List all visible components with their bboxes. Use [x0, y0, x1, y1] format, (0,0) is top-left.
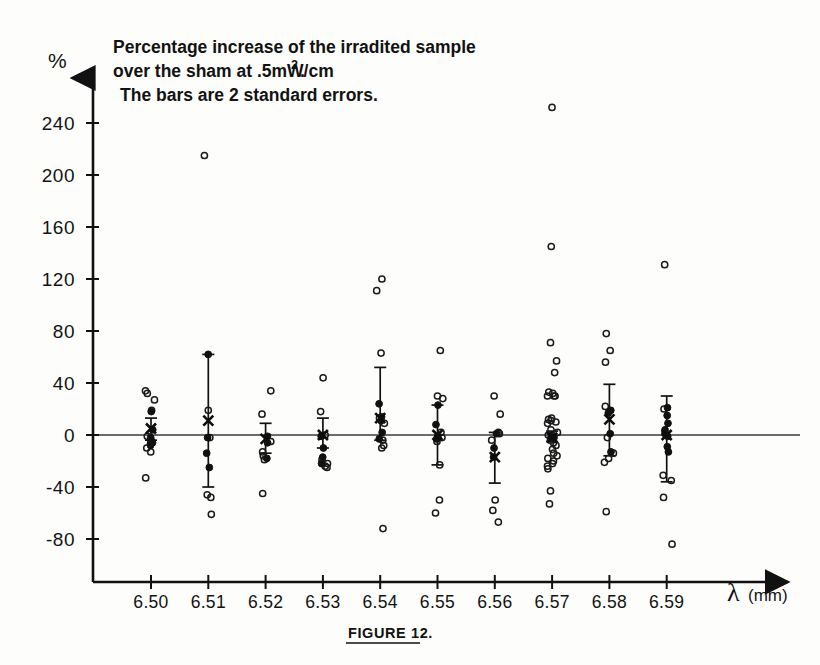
- data-point-open: [603, 509, 609, 515]
- data-point-open: [320, 375, 326, 381]
- x-tick-label: 6.54: [363, 592, 398, 612]
- x-tick-label: 6.58: [592, 592, 627, 612]
- data-group-column: [317, 375, 331, 471]
- data-point-open: [380, 526, 386, 532]
- data-point-filled: [206, 464, 213, 471]
- y-tick-label: 40: [53, 373, 75, 394]
- data-group-column: [660, 262, 675, 548]
- caption-text: FIGURE 12.: [348, 625, 433, 641]
- data-point-open: [546, 501, 552, 507]
- data-point-open: [259, 411, 265, 417]
- y-axis-ticks: 24020016012080400-40-80: [42, 113, 99, 550]
- data-point-open: [552, 370, 558, 376]
- data-point-open: [660, 472, 666, 478]
- plot-axes: [93, 78, 800, 582]
- data-point-open: [495, 519, 501, 525]
- data-point-filled: [319, 454, 326, 461]
- data-point-open: [151, 397, 157, 403]
- data-group-column: [201, 152, 214, 517]
- data-point-filled: [376, 436, 383, 443]
- y-tick-label: 0: [64, 425, 75, 446]
- x-tick-label: 6.57: [534, 592, 569, 612]
- x-tick-label: 6.55: [420, 592, 455, 612]
- data-group-column: [374, 276, 388, 532]
- x-tick-label: 6.59: [649, 592, 684, 612]
- data-point-open: [662, 262, 668, 268]
- x-tick-label: 6.56: [477, 592, 512, 612]
- data-point-filled: [665, 420, 672, 427]
- data-point-open: [491, 393, 497, 399]
- data-point-open: [553, 358, 559, 364]
- figure-annotation: Percentage increase of the irradited sam…: [113, 37, 476, 105]
- y-tick-label: 200: [42, 165, 75, 186]
- data-point-open: [440, 396, 446, 402]
- lambda-symbol: λ: [727, 578, 740, 607]
- annotation-superscript: 2: [291, 58, 298, 72]
- y-tick-label: 120: [42, 269, 75, 290]
- x-axis-units-label: (mm): [748, 586, 788, 605]
- data-point-filled: [147, 442, 154, 449]
- data-point-open: [208, 511, 214, 517]
- data-point-open: [547, 488, 553, 494]
- data-point-open: [603, 331, 609, 337]
- x-tick-label: 6.53: [305, 592, 340, 612]
- data-group-column: [601, 331, 616, 515]
- data-point-open: [668, 477, 674, 483]
- data-point-filled: [204, 434, 211, 441]
- data-point-open: [547, 340, 553, 346]
- x-axis-ticks: 6.506.516.526.536.546.556.566.576.586.59: [133, 575, 684, 612]
- annotation-line-1: Percentage increase of the irradited sam…: [113, 37, 476, 57]
- data-point-filled: [376, 400, 383, 407]
- data-point-filled: [263, 455, 270, 462]
- data-group-column: [259, 388, 274, 497]
- data-point-filled: [608, 449, 615, 456]
- data-point-filled: [664, 404, 671, 411]
- data-point-filled: [664, 412, 671, 419]
- data-point-open: [492, 497, 498, 503]
- data-point-filled: [148, 408, 155, 415]
- data-group-column: [544, 104, 560, 507]
- annotation-trailing-dot: .: [300, 61, 305, 81]
- data-point-open: [548, 243, 554, 249]
- data-point-open: [318, 409, 324, 415]
- data-point-open: [601, 459, 607, 465]
- data-point-open: [436, 497, 442, 503]
- data-point-open: [660, 494, 666, 500]
- data-point-open: [374, 288, 380, 294]
- x-tick-label: 6.52: [248, 592, 283, 612]
- data-point-open: [379, 276, 385, 282]
- data-point-filled: [435, 402, 442, 409]
- data-point-filled: [491, 445, 498, 452]
- data-point-filled: [433, 421, 440, 428]
- data-point-open: [489, 437, 495, 443]
- data-point-open: [549, 104, 555, 110]
- y-tick-label: 80: [53, 321, 75, 342]
- figure-container: 24020016012080400-40-80 6.506.516.526.53…: [0, 0, 820, 665]
- data-point-open: [268, 388, 274, 394]
- y-tick-label: -80: [46, 529, 75, 550]
- y-axis-unit-label: %: [48, 49, 67, 72]
- data-group-column: [432, 347, 446, 516]
- data-point-open: [432, 510, 438, 516]
- x-tick-label: 6.51: [191, 592, 226, 612]
- figure-plot: 24020016012080400-40-80 6.506.516.526.53…: [0, 0, 820, 665]
- data-point-open: [201, 152, 207, 158]
- figure-caption: FIGURE 12.: [346, 625, 433, 643]
- data-point-open: [497, 411, 503, 417]
- data-point-open: [607, 347, 613, 353]
- data-point-open: [602, 359, 608, 365]
- data-point-open: [490, 507, 496, 513]
- data-point-filled: [318, 460, 325, 467]
- data-point-open: [669, 541, 675, 547]
- data-point-filled: [665, 449, 672, 456]
- data-point-open: [378, 350, 384, 356]
- data-point-filled: [203, 450, 210, 457]
- y-tick-label: 240: [42, 113, 75, 134]
- x-tick-label: 6.50: [133, 592, 168, 612]
- data-group-column: [489, 393, 504, 525]
- data-point-open: [148, 449, 154, 455]
- data-point-filled: [607, 430, 614, 437]
- data-point-filled: [205, 351, 212, 358]
- data-point-open: [437, 347, 443, 353]
- data-point-open: [143, 475, 149, 481]
